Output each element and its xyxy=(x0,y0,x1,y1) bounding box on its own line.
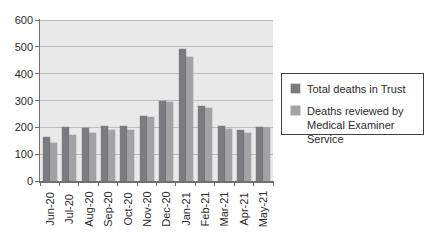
y-axis-tick-200 xyxy=(35,127,39,128)
y-axis-tick-0 xyxy=(35,181,39,182)
x-axis-label-text-dec-20: Dec-20 xyxy=(160,191,172,226)
y-axis-label-600: 600 xyxy=(0,13,33,27)
y-axis-tick-500 xyxy=(35,46,39,47)
x-axis-label-jul-20: Jul-20 xyxy=(59,186,78,232)
legend-item-total-deaths: Total deaths in Trust xyxy=(291,82,415,96)
y-axis-label-200: 200 xyxy=(0,120,33,134)
bar-deaths-reviewed-by-medical-examiner-service-feb-21 xyxy=(205,108,212,181)
y-axis-tick-300 xyxy=(35,100,39,101)
bar-total-deaths-in-trust-apr-21 xyxy=(237,130,244,181)
bar-deaths-reviewed-by-medical-examiner-service-jul-20 xyxy=(69,135,76,181)
gridline-600 xyxy=(40,20,273,21)
legend-label-reviewed-deaths: Deaths reviewed by Medical Examiner Serv… xyxy=(307,104,415,146)
x-axis-label-dec-20: Dec-20 xyxy=(157,186,176,232)
x-axis-label-feb-21: Feb-21 xyxy=(195,186,214,232)
gridline-500 xyxy=(40,46,273,47)
bar-deaths-reviewed-by-medical-examiner-service-jun-20 xyxy=(50,143,57,181)
chart-container: Total deaths in Trust Deaths reviewed by… xyxy=(0,0,438,233)
x-axis-label-text-sep-20: Sep-20 xyxy=(102,191,114,226)
bar-total-deaths-in-trust-jan-21 xyxy=(179,49,186,181)
x-axis-label-text-mar-21: Mar-21 xyxy=(219,192,231,227)
bar-deaths-reviewed-by-medical-examiner-service-apr-21 xyxy=(244,133,251,181)
x-axis-label-nov-20: Nov-20 xyxy=(137,186,156,232)
bar-deaths-reviewed-by-medical-examiner-service-aug-20 xyxy=(89,133,96,181)
bar-deaths-reviewed-by-medical-examiner-service-mar-21 xyxy=(225,129,232,181)
y-axis-label-400: 400 xyxy=(0,67,33,81)
bar-total-deaths-in-trust-oct-20 xyxy=(120,126,127,182)
bar-deaths-reviewed-by-medical-examiner-service-jan-21 xyxy=(186,57,193,182)
gridline-400 xyxy=(40,73,273,74)
bar-total-deaths-in-trust-nov-20 xyxy=(140,116,147,181)
x-axis-label-oct-20: Oct-20 xyxy=(118,186,137,232)
x-axis-label-may-21: May-21 xyxy=(254,186,273,232)
bar-deaths-reviewed-by-medical-examiner-service-may-21 xyxy=(263,128,270,181)
gridline-200 xyxy=(40,127,273,128)
y-axis-label-0: 0 xyxy=(0,174,33,188)
bar-deaths-reviewed-by-medical-examiner-service-sep-20 xyxy=(108,130,115,181)
x-axis-label-text-apr-21: Apr-21 xyxy=(238,192,250,225)
bar-deaths-reviewed-by-medical-examiner-service-dec-20 xyxy=(166,102,173,181)
y-axis-label-500: 500 xyxy=(0,40,33,54)
legend-label-reviewed-deaths-line1: Deaths reviewed by xyxy=(307,105,404,117)
bar-total-deaths-in-trust-aug-20 xyxy=(82,128,89,181)
y-axis-label-300: 300 xyxy=(0,94,33,108)
bar-deaths-reviewed-by-medical-examiner-service-oct-20 xyxy=(127,130,134,181)
gridline-300 xyxy=(40,100,273,101)
legend-marker-reviewed-deaths-icon xyxy=(291,106,300,115)
x-axis-label-text-feb-21: Feb-21 xyxy=(199,192,211,227)
bar-total-deaths-in-trust-sep-20 xyxy=(101,126,108,181)
x-axis-label-text-aug-20: Aug-20 xyxy=(82,191,94,226)
y-axis-label-100: 100 xyxy=(0,147,33,161)
x-axis-label-jan-21: Jan-21 xyxy=(176,186,195,232)
legend-marker-total-deaths-icon xyxy=(291,84,300,93)
legend-item-reviewed-deaths: Deaths reviewed by Medical Examiner Serv… xyxy=(291,104,415,146)
x-axis-label-text-jul-20: Jul-20 xyxy=(63,194,75,224)
legend-box: Total deaths in Trust Deaths reviewed by… xyxy=(281,73,424,135)
bar-total-deaths-in-trust-jul-20 xyxy=(62,127,69,181)
bar-total-deaths-in-trust-jun-20 xyxy=(43,137,50,181)
bar-total-deaths-in-trust-mar-21 xyxy=(218,126,225,181)
x-axis-label-text-jan-21: Jan-21 xyxy=(180,192,192,226)
x-axis-label-jun-20: Jun-20 xyxy=(40,186,59,232)
bar-total-deaths-in-trust-may-21 xyxy=(256,127,263,181)
x-axis-label-sep-20: Sep-20 xyxy=(98,186,117,232)
x-axis-label-text-jun-20: Jun-20 xyxy=(44,192,56,226)
x-axis-label-apr-21: Apr-21 xyxy=(234,186,253,232)
bar-total-deaths-in-trust-feb-21 xyxy=(198,106,205,181)
x-axis-label-text-may-21: May-21 xyxy=(257,191,269,228)
y-axis-tick-400 xyxy=(35,73,39,74)
y-axis-tick-100 xyxy=(35,154,39,155)
bar-total-deaths-in-trust-dec-20 xyxy=(159,101,166,181)
legend-label-total-deaths: Total deaths in Trust xyxy=(307,82,405,96)
y-axis-tick-600 xyxy=(35,20,39,21)
bar-deaths-reviewed-by-medical-examiner-service-nov-20 xyxy=(147,117,154,181)
plot-area xyxy=(40,20,273,181)
x-axis-label-aug-20: Aug-20 xyxy=(79,186,98,232)
x-axis-label-text-oct-20: Oct-20 xyxy=(121,192,133,225)
x-axis-label-mar-21: Mar-21 xyxy=(215,186,234,232)
legend-label-reviewed-deaths-line2: Medical Examiner Service xyxy=(307,119,394,145)
x-axis-label-text-nov-20: Nov-20 xyxy=(141,191,153,226)
